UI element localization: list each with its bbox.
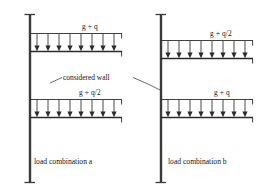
panel-b-caption: load combination b [168,157,227,166]
load-arrow [242,100,247,117]
load-arrow [242,41,247,58]
panel-a-caption: load combination a [34,157,92,166]
load-arrow [231,100,236,117]
load-arrow [78,34,83,51]
load-arrow [165,100,170,117]
panel-b-lower-load-arrows [165,100,247,117]
load-arrow [67,100,72,117]
load-arrow [34,34,39,51]
panel-b-upper-load-arrows [165,41,247,58]
load-arrow [209,41,214,58]
panel-a-lower-load-label: g + q/2 [79,89,101,96]
load-arrow [100,34,105,51]
panel-a-lower-load-arrows [34,100,116,117]
panel-a-upper-load-label: g + q [82,23,98,30]
load-arrow [56,34,61,51]
structural-load-diagram: g + q g + q/2 g + q/2 g + q considered w… [0,0,264,195]
load-arrow [67,34,72,51]
load-arrow [176,100,181,117]
panel-a-upper-load-arrows [34,34,116,51]
load-arrow [187,100,192,117]
load-arrow [220,100,225,117]
load-arrow [187,41,192,58]
load-arrow [100,100,105,117]
load-arrow [209,100,214,117]
load-arrow [220,41,225,58]
load-arrow [45,34,50,51]
load-arrow [111,34,116,51]
considered-wall-label: considered wall [63,73,110,82]
load-arrow [89,100,94,117]
load-arrow [165,41,170,58]
load-arrow [56,100,61,117]
load-arrow [34,100,39,117]
load-arrow [176,41,181,58]
load-arrow [78,100,83,117]
leader-line-right [133,78,148,85]
load-arrow [198,100,203,117]
load-arrow [198,41,203,58]
leader-line-left [50,78,62,84]
load-arrow [231,41,236,58]
panel-b-lower-load-label: g + q [214,89,230,96]
panel-b-upper-load-label: g + q/2 [210,30,232,37]
load-arrow [111,100,116,117]
leader-line-right-extension [148,84,160,90]
load-arrow [89,34,94,51]
load-arrow [45,100,50,117]
